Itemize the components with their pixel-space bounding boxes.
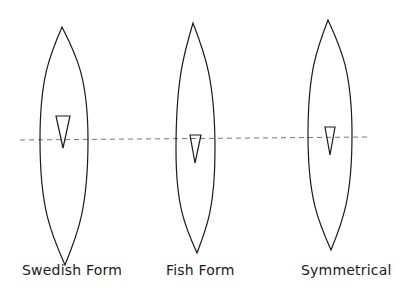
hull-outline — [308, 20, 352, 250]
label-swedish-form: Swedish Form — [22, 262, 122, 278]
label-fish-form: Fish Form — [166, 262, 235, 278]
triangle-marker-icon — [56, 116, 70, 148]
hull-symmetrical — [308, 20, 352, 250]
hull-forms-diagram — [0, 0, 404, 299]
triangle-marker-icon — [190, 135, 201, 163]
label-symmetrical: Symmetrical — [301, 262, 392, 278]
triangle-marker-icon — [325, 127, 335, 155]
waterline-dashed — [20, 137, 370, 140]
hull-swedish-form — [40, 27, 88, 265]
